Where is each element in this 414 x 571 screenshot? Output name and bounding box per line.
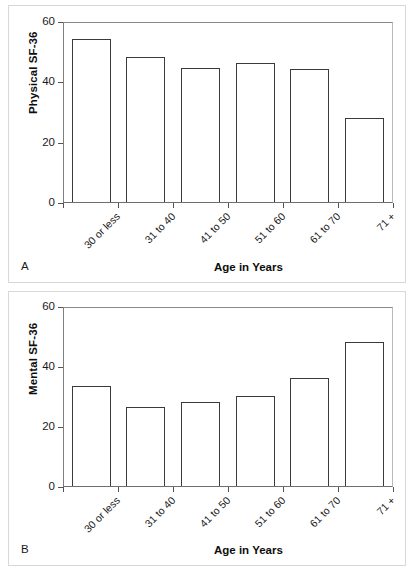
bar bbox=[72, 39, 111, 202]
bar-slot bbox=[283, 23, 337, 202]
y-axis-tick-label: 20 bbox=[23, 421, 55, 433]
plot-area-b bbox=[63, 307, 393, 487]
x-axis-tick-mark bbox=[118, 487, 119, 492]
x-axis-category-label: 61 to 70 bbox=[307, 210, 342, 245]
bar-slot bbox=[119, 308, 173, 486]
x-axis-tick-mark bbox=[338, 487, 339, 492]
bar bbox=[126, 407, 165, 487]
x-axis-category-label: 71 + bbox=[374, 210, 397, 233]
bar-slot bbox=[338, 308, 392, 486]
bar-series-b bbox=[64, 308, 392, 486]
x-axis-tick-mark bbox=[338, 203, 339, 208]
y-axis-title-b: Mental SF-36 bbox=[27, 323, 39, 395]
x-axis-tick-mark bbox=[228, 203, 229, 208]
chart-panel-a: Physical SF-36 0204060 30 or less31 to 4… bbox=[8, 5, 406, 283]
chart-panel-b: Mental SF-36 0204060 30 or less31 to 404… bbox=[8, 291, 406, 566]
bar-slot bbox=[283, 308, 337, 486]
x-axis-tick-mark bbox=[173, 487, 174, 492]
bar-slot bbox=[64, 308, 118, 486]
bar-slot bbox=[228, 23, 282, 202]
bar bbox=[181, 68, 220, 202]
x-axis-tick-mark bbox=[393, 203, 394, 208]
x-axis-tick-mark bbox=[63, 203, 64, 208]
y-axis-tick-label: 40 bbox=[23, 76, 55, 88]
bar bbox=[345, 342, 384, 486]
bar-slot bbox=[338, 23, 392, 202]
x-axis-tick-mark bbox=[283, 487, 284, 492]
plot-area-a bbox=[63, 22, 393, 203]
bar-slot bbox=[64, 23, 118, 202]
x-axis-category-label: 31 to 40 bbox=[142, 210, 177, 245]
y-axis-tick-label: 20 bbox=[23, 137, 55, 149]
bar bbox=[236, 63, 275, 202]
y-axis-tick-label: 40 bbox=[23, 361, 55, 373]
bar bbox=[236, 396, 275, 486]
x-axis-category-label: 51 to 60 bbox=[252, 210, 287, 245]
bar bbox=[290, 378, 329, 486]
bar bbox=[345, 118, 384, 203]
x-axis-title-b: Age in Years bbox=[214, 544, 283, 556]
x-axis-category-label: 41 to 50 bbox=[197, 210, 232, 245]
bar-slot bbox=[119, 23, 173, 202]
bar bbox=[290, 69, 329, 202]
panel-letter-b: B bbox=[21, 543, 29, 555]
x-axis-tick-mark bbox=[63, 487, 64, 492]
bar-slot bbox=[228, 308, 282, 486]
y-axis-tick-label: 60 bbox=[23, 301, 55, 313]
x-axis-tick-mark bbox=[173, 203, 174, 208]
bar-slot bbox=[174, 23, 228, 202]
bar bbox=[72, 386, 111, 487]
y-axis-tick-label: 60 bbox=[23, 16, 55, 28]
x-axis-category-label: 51 to 60 bbox=[252, 494, 287, 529]
x-axis-tick-mark bbox=[228, 487, 229, 492]
x-axis-category-label: 61 to 70 bbox=[307, 494, 342, 529]
x-axis-category-label: 71 + bbox=[374, 494, 397, 517]
x-axis-tick-mark bbox=[118, 203, 119, 208]
x-axis-category-label: 30 or less bbox=[81, 210, 122, 251]
x-axis-title-a: Age in Years bbox=[214, 261, 283, 273]
bar-series-a bbox=[64, 23, 392, 202]
bar-slot bbox=[174, 308, 228, 486]
x-axis-category-label: 31 to 40 bbox=[142, 494, 177, 529]
y-axis-title-a: Physical SF-36 bbox=[27, 31, 39, 114]
bar bbox=[126, 57, 165, 202]
x-axis-tick-mark bbox=[283, 203, 284, 208]
panel-letter-a: A bbox=[21, 260, 29, 272]
x-axis-category-label: 41 to 50 bbox=[197, 494, 232, 529]
x-axis-category-label: 30 or less bbox=[81, 494, 122, 535]
bar bbox=[181, 402, 220, 486]
y-axis-tick-label: 0 bbox=[23, 197, 55, 209]
x-axis-tick-mark bbox=[393, 487, 394, 492]
y-axis-tick-label: 0 bbox=[23, 481, 55, 493]
